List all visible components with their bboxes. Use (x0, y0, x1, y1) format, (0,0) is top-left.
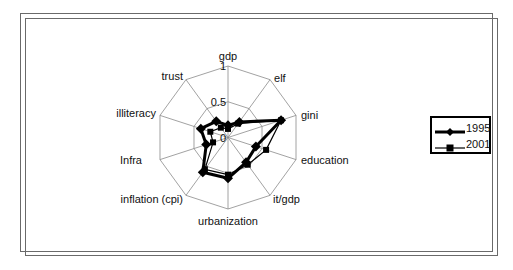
axis-label-illiteracy: illiteracy (116, 107, 156, 119)
legend-swatch-1995-icon (435, 123, 465, 133)
legend-label: 1995 (466, 122, 490, 134)
data-point-2001 (235, 121, 241, 127)
axis-label-urbanization: urbanization (198, 215, 258, 227)
data-point-1995 (196, 124, 206, 134)
axis-label-infra: Infra (120, 154, 143, 166)
data-point-2001 (225, 172, 231, 178)
data-point-2001 (202, 166, 208, 172)
legend-item-1995: 1995 (435, 121, 490, 135)
axis-label-gini: gini (301, 109, 318, 121)
radial-tick-label: 0 (220, 132, 226, 144)
axis-label-it-gdp: it/gdp (273, 193, 300, 205)
legend-item-2001: 2001 (435, 137, 490, 151)
data-point-2001 (207, 129, 213, 135)
data-point-2001 (210, 139, 216, 145)
data-point-2001 (278, 117, 284, 123)
data-point-2001 (225, 126, 231, 132)
radial-tick-label: 0.5 (211, 96, 226, 108)
data-point-2001 (263, 147, 269, 153)
axis-label-trust: trust (162, 70, 183, 82)
data-point-2001 (245, 162, 251, 168)
legend-label: 2001 (466, 138, 490, 150)
series-line-2001 (205, 120, 281, 174)
data-point-2001 (218, 125, 224, 131)
axis-label-gdp: gdp (219, 50, 237, 62)
data-point-1995 (201, 140, 211, 150)
axis-label-education: education (301, 154, 349, 166)
axis-label-inflation-cpi-: inflation (cpi) (121, 193, 183, 205)
legend-swatch-2001-icon (435, 139, 465, 149)
grid-spoke (228, 80, 270, 138)
legend: 1995 2001 (430, 116, 491, 154)
axis-label-elf: elf (274, 72, 287, 84)
